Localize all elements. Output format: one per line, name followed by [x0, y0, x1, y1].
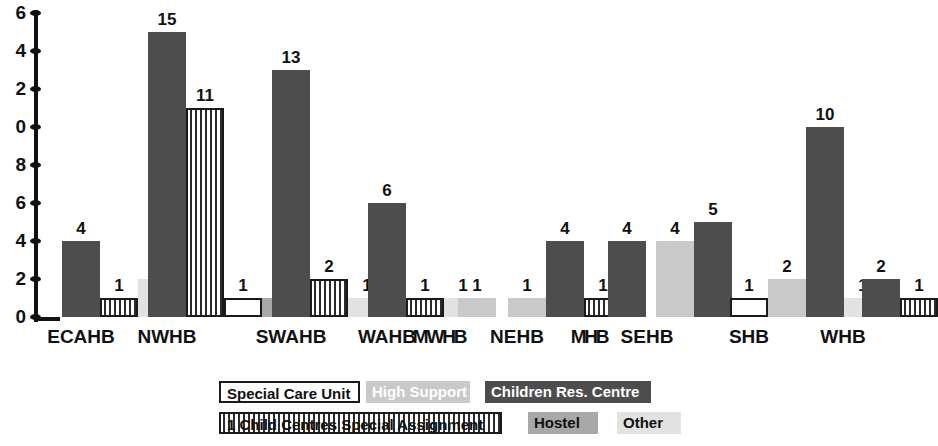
bar-value-label: 1 [224, 277, 262, 294]
legend-item-scu: Special Care Unit [219, 381, 360, 403]
bar [310, 279, 348, 317]
bar-value-label: 4 [608, 220, 646, 237]
y-tick-label: 4 [0, 231, 26, 250]
bar [62, 241, 100, 317]
bar [656, 241, 694, 317]
y-tick-label: 6 [0, 3, 26, 22]
bar [862, 279, 900, 317]
bar-value-label: 5 [694, 201, 732, 218]
bar [608, 241, 646, 317]
y-tick-label: 8 [0, 155, 26, 174]
bar-value-label: 2 [310, 258, 348, 275]
bar-value-label: 6 [368, 182, 406, 199]
bar [694, 222, 732, 317]
legend-item-host: Hostel [528, 412, 598, 434]
y-tick-label: 2 [0, 79, 26, 98]
bar [148, 32, 186, 317]
bar-value-label: 1 [730, 277, 768, 294]
y-tick-label: 4 [0, 41, 26, 60]
bar [546, 241, 584, 317]
bar-value-label: 1 [406, 277, 444, 294]
bar-value-label: 2 [768, 258, 806, 275]
bar [730, 298, 768, 317]
bar-value-label: 11 [186, 87, 224, 104]
x-axis-label-whb: WHB [793, 326, 893, 348]
legend-item-hs: High Support [366, 381, 470, 403]
bar-value-label: 4 [656, 220, 694, 237]
legend-item-crc: Children Res. Centre [485, 381, 651, 403]
y-tick-label: 0 [0, 117, 26, 136]
x-axis-label-ecahb: ECAHB [31, 326, 131, 348]
bar [368, 203, 406, 317]
bar-value-label: 1 [100, 277, 138, 294]
bar [100, 298, 138, 317]
bar-value-label: 1 [900, 277, 938, 294]
bar [406, 298, 444, 317]
bar [508, 298, 546, 317]
y-tick-label: 6 [0, 193, 26, 212]
chart-legend: Special Care UnitHigh SupportChildren Re… [0, 381, 895, 443]
bar-value-label: 4 [62, 220, 100, 237]
x-axis-label-swahb: SWAHB [241, 326, 341, 348]
bar-value-label: 2 [862, 258, 900, 275]
x-axis-label-shb: SHB [699, 326, 799, 348]
bar-value-label: 13 [272, 49, 310, 66]
x-axis-label-sehb: SEHB [597, 326, 697, 348]
bar [224, 298, 262, 317]
bar [806, 127, 844, 317]
bar [458, 298, 496, 317]
bar-value-label: 10 [806, 106, 844, 123]
legend-item-oth: Other [617, 412, 681, 434]
bar [768, 279, 806, 317]
legend-item-ccsa: 1 Child Centres Special Assignment [219, 412, 502, 434]
bar [900, 298, 938, 317]
bar-value-label: 4 [546, 220, 584, 237]
bar-value-label: 1 [508, 277, 546, 294]
bar [186, 108, 224, 317]
plot-area: 412151111132161111414451210121 [38, 0, 895, 321]
y-tick-label: 2 [0, 269, 26, 288]
bar-value-label: 1 [458, 277, 496, 294]
x-axis-label-nwhb: NWHB [117, 326, 217, 348]
y-tick-label: 0 [0, 307, 26, 326]
bar-value-label: 15 [148, 11, 186, 28]
bar [272, 70, 310, 317]
